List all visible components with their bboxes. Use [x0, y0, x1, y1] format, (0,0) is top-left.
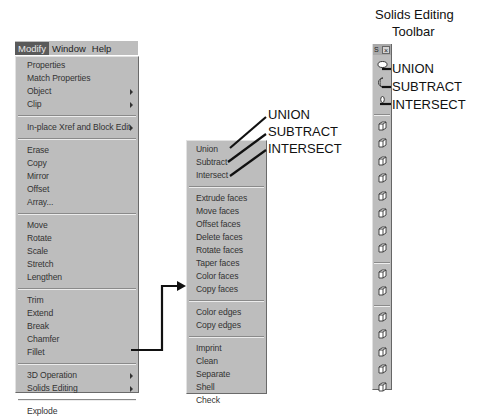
menu-item-explode[interactable]: Explode	[16, 405, 138, 418]
menu-item-label: Explode	[27, 406, 57, 416]
